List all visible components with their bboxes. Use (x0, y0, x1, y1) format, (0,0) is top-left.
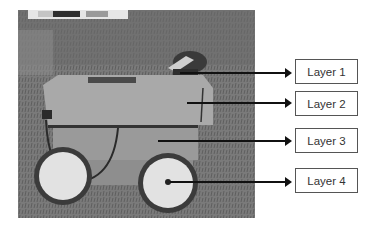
arrow-layer-1 (180, 72, 286, 74)
arrow-layer-3 (158, 140, 286, 142)
rover-illustration (18, 10, 255, 218)
arrow-layer-4 (170, 181, 286, 183)
label-layer-3: Layer 3 (295, 128, 358, 153)
label-layer-4: Layer 4 (295, 168, 358, 193)
arrow-layer-2 (187, 102, 286, 104)
upper-box (42, 75, 213, 125)
label-layer-2: Layer 2 (295, 91, 358, 116)
rover-photo (18, 10, 255, 218)
label-layer-1: Layer 1 (295, 59, 358, 84)
